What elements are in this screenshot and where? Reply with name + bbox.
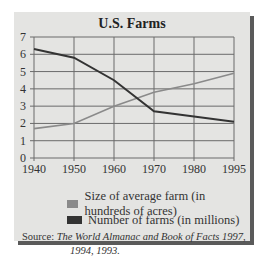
x-tick-label: 1950 [62, 162, 86, 176]
y-tick-label: 6 [20, 47, 26, 61]
source-prefix: Source: [22, 231, 57, 242]
series-line-farm-size [34, 73, 234, 128]
source-title: The World Almanac and Book of Facts 1997… [57, 231, 246, 242]
legend-swatch-size [67, 200, 78, 208]
y-tick-label: 1 [20, 134, 26, 148]
x-tick-label: 1995 [222, 162, 246, 176]
source-years: 1994, 1993. [70, 245, 120, 256]
x-tick-label: 1960 [102, 162, 126, 176]
legend-item-number: Number of farms (in millions) [67, 212, 250, 228]
y-tick-label: 7 [20, 30, 26, 44]
legend: Size of average farm (in hundreds of acr… [67, 196, 250, 228]
y-tick-label: 5 [20, 65, 26, 79]
x-tick-label: 1980 [182, 162, 206, 176]
legend-swatch-number [67, 216, 82, 224]
x-tick-label: 1940 [22, 162, 46, 176]
source-note: Source: The World Almanac and Book of Fa… [22, 230, 246, 258]
chart-panel: U.S. Farms 01234567194019501960197019801… [14, 12, 250, 241]
y-tick-label: 4 [20, 82, 26, 96]
y-tick-label: 3 [20, 99, 26, 113]
x-tick-label: 1970 [142, 162, 166, 176]
legend-label-number: Number of farms (in millions) [88, 213, 239, 228]
legend-item-size: Size of average farm (in hundreds of acr… [67, 196, 250, 212]
y-tick-label: 2 [20, 116, 26, 130]
series-line-farm-count [34, 49, 234, 122]
